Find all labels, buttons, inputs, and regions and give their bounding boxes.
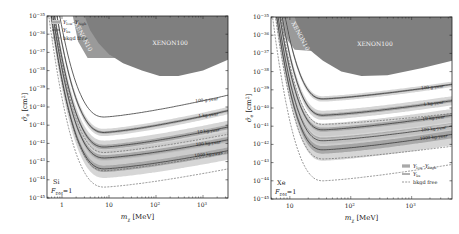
x-axis-label: mχ [MeV] [121, 213, 155, 222]
exposure-label: 1 kg-year [198, 111, 218, 118]
y-tick-label: 10−42 [253, 140, 270, 148]
y-tick-label: 10−40 [29, 103, 46, 111]
panel-si: 100 g-year1 kg-year10 kg-year100 kg-year… [21, 0, 228, 222]
legend: Ylow–YhighYbsbkgd free [402, 163, 437, 186]
y-tick-label: 10−36 [29, 30, 46, 38]
y-tick-label: 10−44 [253, 176, 270, 184]
y-tick-label: 10−39 [29, 84, 46, 92]
target-label: Si [53, 178, 60, 186]
x-tick-label: 1 [60, 201, 64, 208]
legend-median-label: Ybs [63, 27, 71, 34]
x-tick-label: 103 [197, 201, 208, 209]
y-axis-label: σ̄e [cm2] [245, 93, 254, 122]
y-tick-label: 10−37 [29, 48, 46, 56]
y-tick-label: 10−41 [29, 121, 45, 129]
x-tick-label: 10 [286, 202, 294, 209]
y-axis-label: σ̄e [cm2] [21, 92, 30, 121]
y-tick-label: 10−36 [253, 31, 270, 39]
y-tick-label: 10−42 [29, 139, 46, 147]
xenon100-label: XENON100 [152, 39, 188, 46]
y-tick-label: 10−45 [253, 195, 270, 203]
y-tick-label: 10−38 [29, 66, 46, 74]
legend-band-label: Ylow–Yhigh [413, 163, 437, 170]
x-tick-label: 10 [105, 201, 113, 208]
y-tick-label: 10−37 [253, 49, 270, 57]
y-tick-label: 10−41 [253, 122, 269, 130]
y-tick-label: 10−39 [253, 85, 270, 93]
y-tick-label: 10−45 [29, 194, 46, 202]
y-tick-label: 10−40 [253, 104, 270, 112]
figure: 100 g-year1 kg-year10 kg-year100 kg-year… [0, 0, 459, 234]
form-factor-label: FDM=1 [274, 188, 296, 197]
x-tick-label: 102 [150, 201, 161, 209]
x-tick-label: 103 [406, 202, 417, 210]
legend-bkgd-free-label: bkgd free [63, 35, 87, 42]
x-axis-label: mχ [MeV] [345, 214, 379, 223]
y-tick-label: 10−44 [29, 175, 46, 183]
y-tick-label: 10−35 [253, 13, 270, 21]
y-tick-label: 10−43 [29, 157, 46, 165]
panel-xe: 100 g-year1 kg-year10 kg-year100 kg-year… [245, 0, 452, 223]
form-factor-label: FDM=1 [50, 187, 72, 196]
x-tick-label: 102 [345, 202, 356, 210]
y-tick-label: 10−35 [29, 12, 46, 20]
xenon100-label: XENON100 [357, 40, 393, 47]
target-label: Xe [277, 179, 286, 187]
legend-median-label: Ybs [413, 171, 421, 178]
exposure-label: 100 g-year [195, 96, 218, 103]
y-tick-label: 10−38 [253, 67, 270, 75]
y-tick-label: 10−43 [253, 158, 270, 166]
plot-area: 100 g-year1 kg-year10 kg-year100 kg-year… [254, 0, 452, 181]
legend-bkgd-free-label: bkgd free [413, 179, 437, 186]
